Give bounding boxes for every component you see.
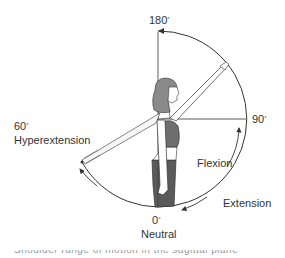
- figure-arm-hyperextended: [82, 113, 160, 164]
- flexion-label: Flexion: [197, 157, 232, 169]
- extension-label: Extension: [223, 197, 271, 209]
- neutral-label: Neutral: [141, 228, 176, 240]
- angle-60-label: 60°: [14, 120, 29, 132]
- hyperextension-label: Hyperextension: [14, 134, 90, 146]
- angle-180-label: 180°: [149, 14, 170, 26]
- angle-90-label: 90°: [252, 113, 267, 125]
- figure-face: [168, 87, 179, 103]
- arc-arrowhead-icon: [158, 28, 164, 34]
- angle-0-label: 0°: [152, 214, 161, 226]
